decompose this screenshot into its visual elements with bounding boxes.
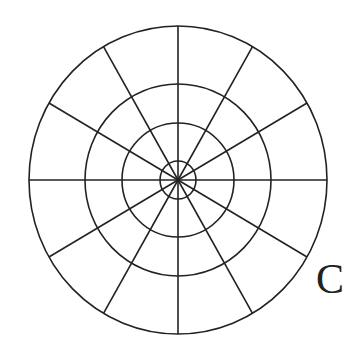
spoke-5 (178, 180, 307, 257)
spoke-11 (49, 103, 178, 180)
polar-grid-diagram (0, 0, 358, 347)
spoke-8 (104, 180, 179, 313)
polar-grid-figure: C (0, 0, 358, 347)
spoke-6 (178, 180, 253, 313)
figure-label: C (316, 258, 344, 300)
spoke-12 (104, 47, 179, 180)
spoke-3 (178, 103, 307, 180)
spoke-2 (178, 47, 253, 180)
spoke-9 (49, 180, 178, 257)
